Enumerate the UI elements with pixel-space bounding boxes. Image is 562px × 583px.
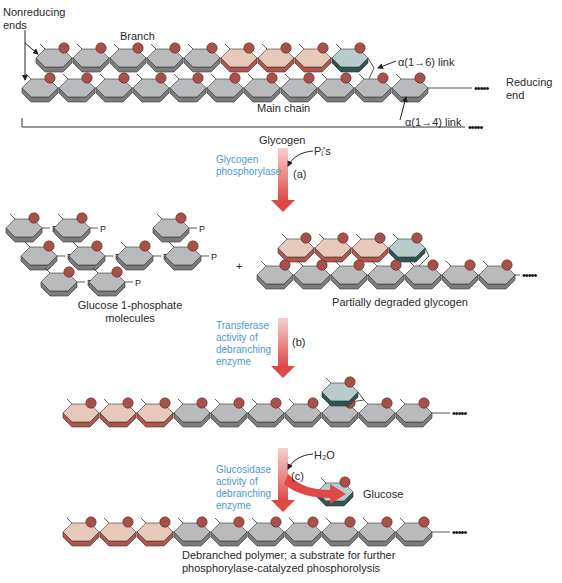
pink-glucose-unit <box>137 517 173 546</box>
ring-oxygen <box>317 260 327 270</box>
arrow-b-head <box>271 366 295 378</box>
step-a-letter: (a) <box>293 168 306 180</box>
gray-glucose-unit <box>73 43 109 72</box>
gray-glucose-unit <box>405 260 441 289</box>
arrow-b-shaft <box>278 318 288 368</box>
gray-glucose-unit <box>285 517 321 546</box>
water-pointer <box>288 454 313 469</box>
gray-glucose-unit <box>244 73 280 102</box>
ring-oxygen <box>244 43 254 53</box>
ring-oxygen <box>354 260 364 270</box>
ring-oxygen <box>96 43 106 53</box>
teal-glucose-unit <box>322 377 358 406</box>
gray-glucose-unit <box>248 517 284 546</box>
ring-oxygen <box>415 73 425 83</box>
plus-sign: + <box>236 260 242 272</box>
gray-glucose-unit: P <box>6 213 58 242</box>
gray-glucose-unit <box>133 73 169 102</box>
ring-oxygen <box>176 213 186 223</box>
ring-oxygen <box>271 517 281 527</box>
phosphate-label: P <box>199 224 205 234</box>
ring-oxygen <box>86 517 96 527</box>
ring-oxygen <box>308 398 318 408</box>
pink-glucose-unit <box>258 43 294 72</box>
pink-glucose-unit <box>295 43 331 72</box>
gray-glucose-unit <box>318 73 354 102</box>
alpha-1-6-link-label: α(1→6) link <box>398 56 454 68</box>
phosphate-reagent-label: Pᵢ's <box>314 145 331 157</box>
gray-glucose-unit <box>174 398 210 427</box>
pink-glucose-unit <box>100 398 136 427</box>
teal-glucose-unit <box>332 43 368 72</box>
ring-oxygen <box>355 43 365 53</box>
ring-oxygen <box>412 233 422 243</box>
ring-oxygen <box>340 477 350 487</box>
ring-oxygen <box>92 241 102 251</box>
pink-glucose-unit <box>100 517 136 546</box>
ring-oxygen <box>197 517 207 527</box>
ring-oxygen <box>280 260 290 270</box>
alpha-1-6-bond <box>368 58 374 68</box>
gray-glucose-unit <box>396 398 432 427</box>
nonreducing-ends-label-2: ends <box>3 19 27 31</box>
gray-glucose-unit <box>22 73 58 102</box>
ring-oxygen <box>428 260 438 270</box>
ring-oxygen <box>133 43 143 53</box>
glycogen-phosphorylase-label-1: Glycogen <box>216 154 258 166</box>
ring-oxygen <box>112 267 122 277</box>
phosphate-label: P <box>100 224 106 234</box>
pink-glucose-unit <box>352 233 388 262</box>
ring-oxygen <box>271 398 281 408</box>
gray-glucose-unit <box>355 73 391 102</box>
gray-glucose-unit: P <box>21 241 73 270</box>
ring-oxygen <box>230 73 240 83</box>
gray-glucose-unit <box>479 260 515 289</box>
gray-glucose-unit <box>170 73 206 102</box>
phosphate-pointer <box>288 151 313 166</box>
phosphate-label: P <box>211 252 217 262</box>
gray-glucose-unit <box>368 260 404 289</box>
partial-alpha-1-6 <box>425 248 429 256</box>
gray-glucose-unit: P <box>89 267 141 296</box>
glucosidase-label-2: activity of <box>216 476 258 488</box>
alpha-1-6-bond <box>369 68 374 79</box>
ring-oxygen <box>82 73 92 83</box>
glycogen-phosphorylase-label-2: phosphorylase <box>216 166 281 178</box>
nonreducing-ends-label-1: Nonreducing <box>3 6 65 18</box>
gray-glucose-unit <box>174 517 210 546</box>
ring-oxygen <box>188 241 198 251</box>
gray-glucose-unit: P <box>54 213 106 242</box>
ring-oxygen <box>123 398 133 408</box>
reducing-end-label-1: Reducing <box>506 76 552 88</box>
gray-glucose-unit <box>248 398 284 427</box>
glucose-1-phosphate-caption-1: Glucose 1-phosphate <box>55 299 205 312</box>
ring-oxygen <box>59 43 69 53</box>
ring-oxygen <box>465 260 475 270</box>
reducing-end-label-2: end <box>506 89 524 101</box>
ring-oxygen <box>119 73 129 83</box>
reducing-end-ellipsis: ••••• <box>474 82 489 94</box>
ring-oxygen <box>234 517 244 527</box>
phosphate-label: P <box>135 278 141 288</box>
gray-glucose-unit <box>110 43 146 72</box>
chain-b-ellipsis: ••••• <box>452 407 467 419</box>
ring-oxygen <box>502 260 512 270</box>
glucose-1-phosphate-caption-2: molecules <box>55 312 205 325</box>
gray-glucose-unit <box>294 260 330 289</box>
glycogen-degradation-diagram: PPPPPPPPP ••••••••••••••••••••••••• <box>0 0 562 583</box>
pink-glucose-unit <box>63 517 99 546</box>
final-caption-1: Debranched polymer; a substrate for furt… <box>182 549 395 561</box>
ring-oxygen <box>77 213 87 223</box>
gray-glucose-unit <box>331 260 367 289</box>
gray-glucose-unit <box>442 260 478 289</box>
glucosidase-label-4: enzyme <box>216 500 251 512</box>
ring-oxygen <box>304 73 314 83</box>
ring-oxygen <box>378 73 388 83</box>
glycogen-label: Glycogen <box>259 134 305 146</box>
pink-glucose-unit <box>137 398 173 427</box>
gray-glucose-unit: P <box>69 241 121 270</box>
ring-oxygen <box>160 517 170 527</box>
ring-oxygen <box>44 241 54 251</box>
ring-oxygen <box>45 73 55 83</box>
water-reagent-label: H₂O <box>314 449 335 461</box>
